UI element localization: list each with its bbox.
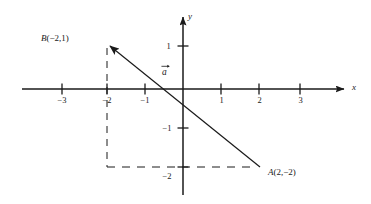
vector-accent-arrow-icon xyxy=(161,63,170,68)
point-label-a: A(2,−2) xyxy=(268,168,296,177)
y-axis-label: y xyxy=(188,12,192,21)
point-label-b: B(−2,1) xyxy=(41,34,69,43)
point-label-a-coords: (2,−2) xyxy=(274,167,296,177)
y-tick-label--1: −1 xyxy=(160,124,174,133)
dashed-guides xyxy=(107,48,254,167)
vector-a-line xyxy=(110,46,260,167)
vector-label-a-text: a xyxy=(162,67,167,77)
coordinate-plane-figure: x y −3 −2 −1 1 2 3 1 −1 −2 B(−2,1) A(2,−… xyxy=(0,0,371,204)
vector-label-a: a xyxy=(162,68,167,78)
x-tick-label-3: 3 xyxy=(296,96,305,105)
x-tick-label--2: −2 xyxy=(100,96,114,105)
x-tick-label-1: 1 xyxy=(217,96,226,105)
point-label-b-coords: (−2,1) xyxy=(47,33,69,43)
x-tick-label-2: 2 xyxy=(255,96,264,105)
x-axis-label: x xyxy=(352,83,356,92)
x-tick-label--1: −1 xyxy=(138,96,152,105)
y-tick-label-1: 1 xyxy=(164,42,173,51)
vector-a-arrow xyxy=(110,46,260,167)
y-axis xyxy=(178,17,189,195)
x-tick-label--3: −3 xyxy=(55,96,69,105)
y-tick-label--2: −2 xyxy=(160,172,174,181)
